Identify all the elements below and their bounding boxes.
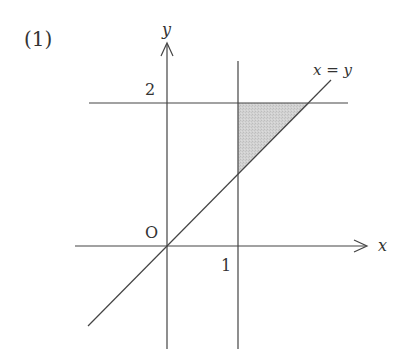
- line-x-equals-y: [88, 80, 331, 326]
- figure-label: (1): [24, 27, 52, 51]
- region-diagram: (1) y x O 2 1 x = y: [0, 0, 410, 349]
- y-axis: [161, 43, 173, 349]
- y-tick-label: 2: [145, 80, 155, 99]
- x-axis: [75, 240, 367, 252]
- x-axis-label: x: [378, 236, 387, 255]
- diagonal-line-label: x = y: [313, 61, 353, 79]
- y-axis-label: y: [161, 20, 172, 39]
- origin-label: O: [145, 223, 158, 242]
- x-tick-label: 1: [221, 256, 231, 275]
